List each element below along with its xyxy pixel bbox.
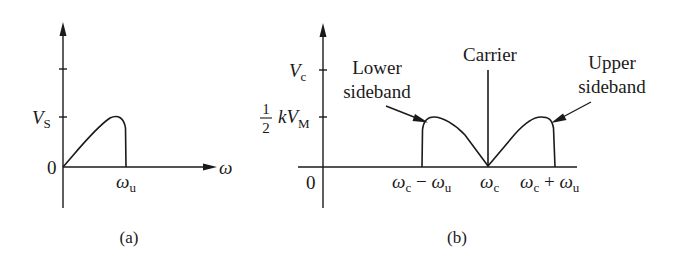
upper-sideband-pointer [561,102,591,118]
panel-b-half-kvm-label: 1 2 kVM [260,101,310,136]
carrier-frequency-label: ωc [480,171,499,195]
panel-a-baseband-curve [63,116,126,167]
lower-sideband-curve [422,117,488,167]
lower-sideband-arrowhead-icon [413,114,429,123]
panel-b-vc-label: Vc [289,60,307,84]
upper-sideband-curve [488,117,555,167]
panel-b-caption: (b) [447,228,467,247]
fraction-numerator: 1 [262,101,270,117]
panel-a-vs-label: VS [32,107,51,131]
carrier-label: Carrier [463,44,517,65]
panel-a-baseband-spectrum: VS 0 ω ωu (a) [32,22,232,247]
am-spectrum-diagram: VS 0 ω ωu (a) Vc 1 2 kVM 0 [0,0,681,263]
panel-a-omega-axis-label: ω [219,157,232,178]
upper-sideband-label-line2: sideband [578,76,646,97]
fraction-denominator: 2 [262,120,270,136]
panel-a-origin-label: 0 [47,157,57,178]
lower-sideband-label-line1: Lower [352,57,402,78]
panel-b-am-spectrum: Vc 1 2 kVM 0 Carrier Lower sideband Uppe… [260,23,646,247]
panel-a-x-arrowhead-icon [203,164,217,171]
upper-sideband-arrowhead-icon [551,114,567,124]
panel-a-caption: (a) [120,228,139,247]
panel-a-y-arrowhead-icon [60,22,67,36]
kvm-text: kVM [278,106,310,131]
lower-sideband-label-line2: sideband [343,81,411,102]
panel-b-y-arrowhead-icon [320,23,327,37]
lower-sideband-edge-label: ωc − ωu [392,171,452,195]
upper-sideband-label-line1: Upper [588,52,636,73]
upper-sideband-edge-label: ωc + ωu [520,171,580,195]
panel-b-origin-label: 0 [306,172,316,193]
panel-a-omega-u-label: ωu [116,171,136,195]
